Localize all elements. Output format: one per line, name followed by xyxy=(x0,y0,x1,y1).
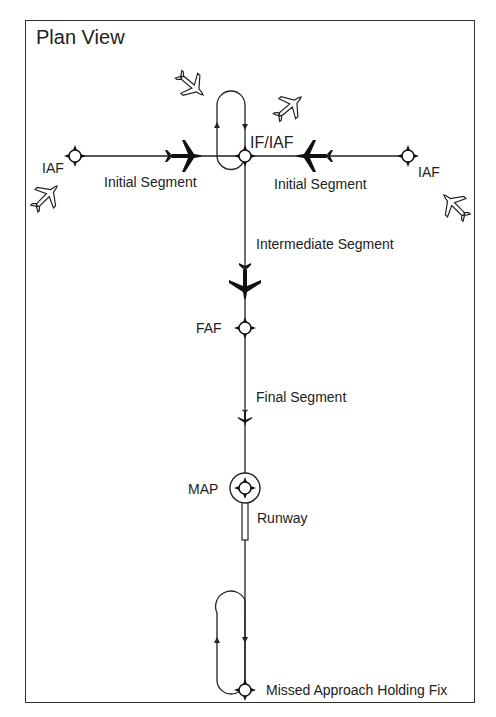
intermediate-segment-label: Intermediate Segment xyxy=(256,236,394,252)
faf-label: FAF xyxy=(196,320,222,336)
iaf-left-label: IAF xyxy=(42,160,64,176)
map-label: MAP xyxy=(188,481,218,497)
missed-approach-holding-fix-label: Missed Approach Holding Fix xyxy=(266,682,447,698)
plane-solid-icon xyxy=(229,263,261,300)
plane-outline-icon xyxy=(25,177,66,218)
if-iaf-label: IF/IAF xyxy=(250,134,294,152)
plane-solid-icon xyxy=(165,140,202,172)
iaf-left-fix-icon xyxy=(64,145,86,167)
iaf-right-fix-icon xyxy=(397,145,419,167)
holding-pattern-bottom xyxy=(216,591,245,694)
initial-segment-right-label: Initial Segment xyxy=(274,176,367,192)
plane-outline-icon xyxy=(268,87,309,127)
missed-approach-fix-icon xyxy=(234,679,256,701)
approach-diagram xyxy=(0,0,496,717)
runway-label: Runway xyxy=(257,510,308,526)
plane-outline-icon xyxy=(435,186,476,227)
plane-outline-icon xyxy=(170,64,211,104)
plane-solid-icon xyxy=(238,409,252,426)
final-segment-label: Final Segment xyxy=(256,389,346,405)
map-fix-icon xyxy=(230,473,260,540)
plane-solid-icon xyxy=(296,140,333,172)
iaf-right-label: IAF xyxy=(418,164,440,180)
faf-fix-icon xyxy=(234,317,256,339)
initial-segment-left-label: Initial Segment xyxy=(104,174,197,190)
